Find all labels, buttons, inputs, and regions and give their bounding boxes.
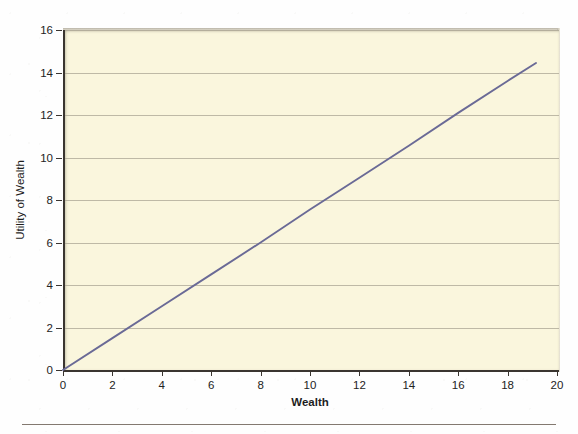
y-tick-mark-14 (56, 73, 62, 74)
gridline-y-8 (65, 200, 559, 201)
x-tick-mark-8 (261, 370, 262, 376)
gridline-y-12 (65, 115, 559, 116)
x-tick-label-16: 16 (452, 379, 465, 391)
x-tick-label-20: 20 (551, 379, 564, 391)
y-tick-label-6: 6 (47, 237, 53, 249)
y-tick-mark-16 (56, 30, 62, 31)
y-tick-mark-6 (56, 243, 62, 244)
gridline-y-14 (65, 73, 559, 74)
x-tick-mark-20 (557, 370, 558, 376)
x-tick-label-6: 6 (208, 379, 214, 391)
y-tick-label-8: 8 (47, 194, 53, 206)
x-tick-label-4: 4 (159, 379, 165, 391)
y-tick-mark-8 (56, 200, 62, 201)
y-tick-mark-12 (56, 115, 62, 116)
x-tick-mark-0 (63, 370, 64, 376)
y-tick-mark-10 (56, 158, 62, 159)
x-tick-mark-18 (508, 370, 509, 376)
x-tick-mark-12 (359, 370, 360, 376)
x-tick-label-10: 10 (304, 379, 317, 391)
figure-canvas: 0246810121416 02468101214161820 Utility … (0, 0, 578, 434)
x-tick-mark-10 (310, 370, 311, 376)
y-tick-label-12: 12 (40, 109, 53, 121)
gridline-y-6 (65, 243, 559, 244)
plot-area (63, 30, 559, 372)
x-tick-mark-6 (211, 370, 212, 376)
x-tick-mark-2 (112, 370, 113, 376)
x-tick-label-12: 12 (353, 379, 366, 391)
x-tick-label-14: 14 (402, 379, 415, 391)
y-tick-label-0: 0 (47, 364, 53, 376)
gridline-y-4 (65, 285, 559, 286)
x-tick-mark-14 (409, 370, 410, 376)
y-tick-label-14: 14 (40, 67, 53, 79)
gridline-y-10 (65, 158, 559, 159)
x-tick-mark-16 (458, 370, 459, 376)
y-tick-mark-2 (56, 328, 62, 329)
y-tick-label-2: 2 (47, 322, 53, 334)
gridline-y-16 (65, 30, 559, 31)
x-tick-label-18: 18 (501, 379, 514, 391)
x-tick-label-0: 0 (60, 379, 66, 391)
y-tick-label-4: 4 (47, 279, 53, 291)
y-axis-label: Utility of Wealth (14, 160, 26, 240)
y-tick-label-16: 16 (40, 24, 53, 36)
x-tick-label-2: 2 (109, 379, 115, 391)
footer-rule (22, 424, 556, 425)
x-tick-mark-4 (162, 370, 163, 376)
x-axis-label: Wealth (291, 396, 329, 408)
y-tick-label-10: 10 (40, 152, 53, 164)
y-tick-mark-4 (56, 285, 62, 286)
y-tick-mark-0 (56, 370, 62, 371)
x-tick-label-8: 8 (257, 379, 263, 391)
gridline-y-2 (65, 328, 559, 329)
